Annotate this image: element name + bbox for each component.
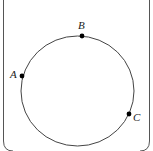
circle <box>21 36 134 146</box>
point-c-label: C <box>133 111 141 123</box>
point-c-dot <box>127 112 132 117</box>
diagram-canvas: A B C <box>0 0 153 151</box>
point-a-dot <box>20 74 25 79</box>
point-b-label: B <box>78 19 85 31</box>
point-a: A <box>9 68 24 80</box>
point-b: B <box>78 19 85 38</box>
frame-border <box>4 0 150 151</box>
point-b-dot <box>80 34 85 39</box>
point-a-label: A <box>9 68 17 80</box>
point-c: C <box>127 111 141 123</box>
